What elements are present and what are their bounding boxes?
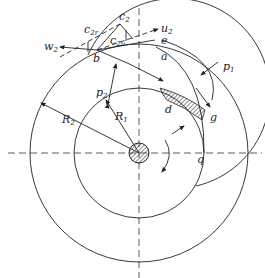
label-e: e xyxy=(161,34,168,47)
p2-arrow xyxy=(108,64,116,104)
diagram-canvas: c2 c2r c2u u2 w2 e a b p1 p2 d g q R1 R2 xyxy=(0,0,265,278)
label-p2: p2 xyxy=(96,86,108,100)
label-c2r: c2r xyxy=(84,23,99,37)
streamline-arrow xyxy=(97,50,163,81)
label-R2: R2 xyxy=(61,113,75,127)
blade-top-line xyxy=(97,40,155,50)
label-q: q xyxy=(197,153,204,166)
label-p1: p1 xyxy=(223,60,235,74)
label-d: d xyxy=(165,103,172,116)
c2-to-u xyxy=(120,24,133,39)
label-g: g xyxy=(210,111,217,124)
label-c2: c2 xyxy=(119,10,130,24)
g-arrow xyxy=(196,88,210,107)
label-b: b xyxy=(93,52,100,65)
label-a: a xyxy=(161,50,168,63)
pressure-arrow xyxy=(172,126,184,134)
label-R1: R1 xyxy=(114,110,128,124)
rotation-arrow xyxy=(162,140,169,172)
label-w2: w2 xyxy=(44,40,58,54)
label-c2u: c2u xyxy=(110,34,126,48)
diagram-svg: c2 c2r c2u u2 w2 e a b p1 p2 d g q R1 R2 xyxy=(0,0,265,278)
